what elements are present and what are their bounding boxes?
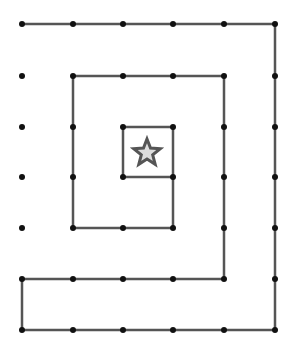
- grid-dot: [221, 73, 227, 79]
- spiral-diagram: [0, 0, 297, 362]
- isolated-dot: [19, 73, 25, 79]
- grid-dot: [272, 73, 278, 79]
- grid-dot: [19, 276, 25, 282]
- grid-dot: [70, 276, 76, 282]
- grid-dot: [272, 21, 278, 27]
- grid-dot: [120, 327, 126, 333]
- grid-dot: [170, 276, 176, 282]
- grid-dot: [70, 124, 76, 130]
- grid-dot: [70, 327, 76, 333]
- grid-dot: [70, 21, 76, 27]
- grid-dot: [221, 327, 227, 333]
- grid-dot: [272, 124, 278, 130]
- grid-dot: [120, 21, 126, 27]
- grid-dot: [221, 174, 227, 180]
- grid-dot: [70, 73, 76, 79]
- isolated-dot: [19, 225, 25, 231]
- grid-dot: [170, 21, 176, 27]
- grid-dot: [221, 124, 227, 130]
- grid-dot: [120, 174, 126, 180]
- grid-dot: [70, 225, 76, 231]
- grid-dot: [272, 327, 278, 333]
- grid-dot: [70, 174, 76, 180]
- grid-dot: [170, 327, 176, 333]
- grid-dot: [170, 225, 176, 231]
- spiral-path: [22, 24, 275, 330]
- isolated-dot: [19, 124, 25, 130]
- grid-dot: [221, 276, 227, 282]
- grid-dot: [272, 276, 278, 282]
- grid-dot: [120, 276, 126, 282]
- isolated-dots: [19, 73, 25, 231]
- grid-dot: [120, 124, 126, 130]
- grid-dot: [272, 225, 278, 231]
- grid-dot: [170, 174, 176, 180]
- grid-dot: [120, 73, 126, 79]
- grid-dot: [19, 21, 25, 27]
- grid-dot: [272, 174, 278, 180]
- grid-dot: [170, 73, 176, 79]
- grid-dot: [170, 124, 176, 130]
- grid-dot: [221, 225, 227, 231]
- star-icon: [134, 139, 161, 164]
- isolated-dot: [19, 174, 25, 180]
- grid-dot: [120, 225, 126, 231]
- grid-dot: [221, 21, 227, 27]
- grid-dot: [19, 327, 25, 333]
